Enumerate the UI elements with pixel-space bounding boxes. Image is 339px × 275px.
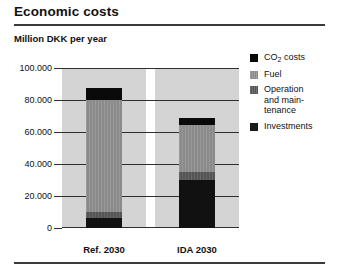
title-divider bbox=[14, 24, 325, 26]
bar-ida2030[interactable] bbox=[179, 118, 215, 228]
legend-label-co2-tail: costs bbox=[281, 52, 305, 62]
chart-legend: CO2 costs Fuel Operation and main- tenan… bbox=[250, 52, 336, 136]
plot-area: 100.000 80.000 60.000 40.000 20.000 0 bbox=[62, 68, 239, 228]
ytick-60000 bbox=[54, 132, 62, 133]
legend-swatch-operation-icon bbox=[250, 86, 258, 94]
legend-label-fuel: Fuel bbox=[264, 69, 282, 80]
ytick-label-60000: 60.000 bbox=[24, 127, 52, 137]
gridline-100000 bbox=[62, 68, 239, 69]
legend-item-co2-costs[interactable]: CO2 costs bbox=[250, 52, 336, 64]
legend-swatch-fuel-icon bbox=[250, 71, 258, 79]
bar-segment-fuel-ref2030 bbox=[86, 100, 122, 212]
ytick-label-0: 0 bbox=[47, 223, 52, 233]
legend-swatch-investments-icon bbox=[250, 123, 258, 131]
page-title: Economic costs bbox=[14, 4, 119, 19]
ytick-label-20000: 20.000 bbox=[24, 191, 52, 201]
xtick-label-ref2030: Ref. 2030 bbox=[62, 244, 146, 255]
y-axis-unit-label: Million DKK per year bbox=[14, 33, 107, 44]
ytick-100000 bbox=[54, 68, 62, 69]
bar-segment-fuel-ida2030 bbox=[179, 125, 215, 172]
legend-label-operation-line3: tenance bbox=[264, 105, 296, 115]
chart-figure: Economic costs Million DKK per year 100.… bbox=[0, 0, 339, 275]
bar-segment-co2-ref2030 bbox=[86, 88, 122, 100]
bar-segment-co2-ida2030 bbox=[179, 118, 215, 125]
ytick-label-40000: 40.000 bbox=[24, 159, 52, 169]
bar-segment-investments-ref2030 bbox=[86, 218, 122, 228]
legend-swatch-co2-icon bbox=[250, 54, 258, 62]
ytick-20000 bbox=[54, 196, 62, 197]
ytick-40000 bbox=[54, 164, 62, 165]
ytick-label-80000: 80.000 bbox=[24, 95, 52, 105]
legend-item-investments[interactable]: Investments bbox=[250, 121, 336, 132]
ytick-0 bbox=[54, 228, 62, 229]
ytick-label-100000: 100.000 bbox=[19, 63, 52, 73]
bar-segment-operation-ida2030 bbox=[179, 172, 215, 180]
legend-label-co2-costs: CO2 costs bbox=[264, 52, 305, 64]
xtick-label-ida2030: IDA 2030 bbox=[155, 244, 239, 255]
legend-item-fuel[interactable]: Fuel bbox=[250, 69, 336, 80]
legend-label-operation-line1: Operation bbox=[264, 84, 304, 94]
legend-label-co2-sub: 2 bbox=[278, 56, 282, 63]
legend-item-operation-maintenance[interactable]: Operation and main- tenance bbox=[250, 84, 336, 116]
legend-label-operation-maintenance: Operation and main- tenance bbox=[264, 84, 304, 116]
bottom-divider bbox=[14, 262, 325, 264]
legend-label-co2-main: CO bbox=[264, 52, 278, 62]
bar-ref2030[interactable] bbox=[86, 88, 122, 228]
bar-segment-investments-ida2030 bbox=[179, 180, 215, 228]
legend-label-investments: Investments bbox=[264, 121, 313, 132]
legend-label-operation-line2: and main- bbox=[264, 95, 304, 105]
ytick-80000 bbox=[54, 100, 62, 101]
